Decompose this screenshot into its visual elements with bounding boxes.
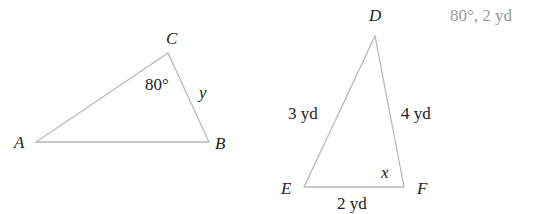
vertex-d-label: D (369, 7, 381, 24)
side-df-label: 4 yd (401, 105, 431, 122)
triangle-def (304, 36, 404, 187)
vertex-e-label: E (281, 180, 291, 197)
vertex-f-label: F (417, 180, 427, 197)
side-de-label: 3 yd (288, 105, 318, 122)
side-cb-label: y (199, 84, 207, 101)
vertex-c-label: C (166, 30, 177, 47)
overlay-text: 80°, 2 yd (450, 7, 512, 24)
angle-f-label: x (381, 164, 389, 181)
vertex-b-label: B (215, 135, 225, 152)
triangle-abc (36, 53, 209, 142)
angle-c-label: 80° (145, 76, 169, 93)
diagram-canvas (0, 0, 535, 214)
side-ef-label: 2 yd (337, 195, 367, 212)
vertex-a-label: A (14, 134, 24, 151)
